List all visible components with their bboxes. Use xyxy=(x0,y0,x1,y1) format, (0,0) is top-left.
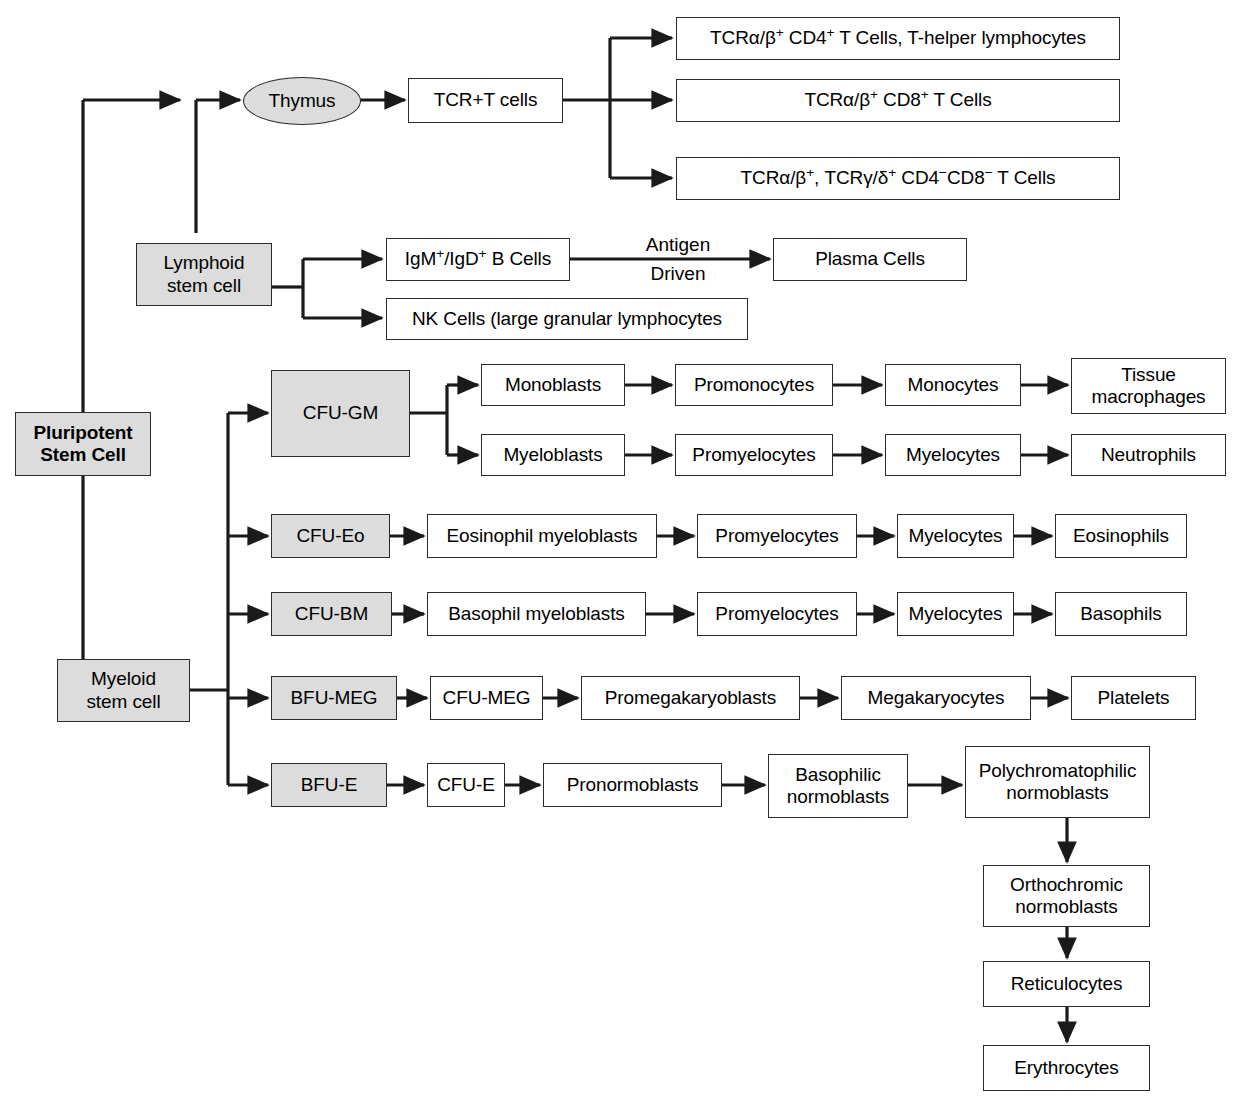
node-label: Lymphoid stem cell xyxy=(164,252,245,297)
node-label: CFU-GM xyxy=(303,402,378,424)
edge-label-driven: Driven xyxy=(613,263,743,285)
node-monoblasts[interactable]: Monoblasts xyxy=(481,364,625,406)
node-label: CFU-E xyxy=(437,774,495,796)
node-bfu-e[interactable]: BFU-E xyxy=(271,763,387,807)
node-label: TCRα/β+ CD8+ T Cells xyxy=(804,89,991,111)
node-label: Pluripotent Stem Cell xyxy=(33,422,132,467)
node-label: Myeloid stem cell xyxy=(86,668,160,713)
node-label: Pronormoblasts xyxy=(567,774,699,796)
edge-label-antigen: Antigen xyxy=(613,234,743,256)
node-label: BFU-E xyxy=(301,774,358,796)
node-label: Neutrophils xyxy=(1101,444,1196,466)
node-myeloid-stem-cell[interactable]: Myeloid stem cell xyxy=(57,659,190,722)
node-reticulocytes[interactable]: Reticulocytes xyxy=(983,961,1150,1007)
node-thymus[interactable]: Thymus xyxy=(243,77,361,125)
node-basophilic-normoblasts[interactable]: Basophilic normoblasts xyxy=(768,754,908,818)
node-label: Tissue macrophages xyxy=(1091,364,1205,409)
node-label: CFU-Eo xyxy=(296,525,364,547)
node-myelocytes-gm[interactable]: Myelocytes xyxy=(885,434,1021,476)
node-label: Promyelocytes xyxy=(715,525,838,547)
node-label: Monoblasts xyxy=(505,374,601,396)
node-neutrophils[interactable]: Neutrophils xyxy=(1071,434,1226,476)
node-label: Eosinophil myeloblasts xyxy=(446,525,637,547)
node-label: Myelocytes xyxy=(908,525,1002,547)
node-label: BFU-MEG xyxy=(291,687,378,709)
node-b-cells[interactable]: IgM+/IgD+ B Cells xyxy=(386,238,570,281)
node-nk-cells[interactable]: NK Cells (large granular lymphocytes xyxy=(386,298,748,340)
node-label: Promyelocytes xyxy=(715,603,838,625)
node-promegakaryoblasts[interactable]: Promegakaryoblasts xyxy=(581,676,800,720)
node-label: NK Cells (large granular lymphocytes xyxy=(412,308,722,330)
node-bfu-meg[interactable]: BFU-MEG xyxy=(271,676,397,720)
node-platelets[interactable]: Platelets xyxy=(1071,676,1196,720)
node-label: Basophilic normoblasts xyxy=(787,764,889,809)
node-cfu-eo[interactable]: CFU-Eo xyxy=(271,514,390,558)
node-pronormoblasts[interactable]: Pronormoblasts xyxy=(543,763,722,807)
node-myelocytes-bm[interactable]: Myelocytes xyxy=(897,592,1014,636)
node-basophil-myeloblasts[interactable]: Basophil myeloblasts xyxy=(427,592,646,636)
node-cfu-bm[interactable]: CFU-BM xyxy=(271,592,392,636)
node-myelocytes-eo[interactable]: Myelocytes xyxy=(897,514,1014,558)
node-cfu-gm[interactable]: CFU-GM xyxy=(271,370,410,457)
node-plasma-cells[interactable]: Plasma Cells xyxy=(773,238,967,281)
node-polychromatophilic-normoblasts[interactable]: Polychromatophilic normoblasts xyxy=(965,746,1150,818)
node-tcr-cd4-t-cells[interactable]: TCRα/β+ CD4+ T Cells, T-helper lymphocyt… xyxy=(676,17,1120,60)
node-label: Polychromatophilic normoblasts xyxy=(979,760,1137,805)
node-label: IgM+/IgD+ B Cells xyxy=(405,248,551,270)
hematopoiesis-diagram: Pluripotent Stem Cell Lymphoid stem cell… xyxy=(0,0,1243,1112)
node-label: Promegakaryoblasts xyxy=(605,687,776,709)
node-pluripotent-stem-cell[interactable]: Pluripotent Stem Cell xyxy=(15,412,151,476)
node-label: TCRα/β+, TCRγ/δ+ CD4−CD8− T Cells xyxy=(741,167,1056,189)
node-label: Megakaryocytes xyxy=(868,687,1005,709)
node-promonocytes[interactable]: Promonocytes xyxy=(675,364,833,406)
node-promyelocytes-gm[interactable]: Promyelocytes xyxy=(675,434,833,476)
node-basophils[interactable]: Basophils xyxy=(1055,592,1187,636)
node-tcr-t-cells[interactable]: TCR+T cells xyxy=(408,78,563,123)
node-label: Basophil myeloblasts xyxy=(448,603,624,625)
node-eosinophils[interactable]: Eosinophils xyxy=(1055,514,1187,558)
node-label: Orthochromic normoblasts xyxy=(1010,874,1123,919)
node-erythrocytes[interactable]: Erythrocytes xyxy=(983,1045,1150,1091)
node-lymphoid-stem-cell[interactable]: Lymphoid stem cell xyxy=(136,243,272,306)
node-label: CFU-BM xyxy=(295,603,368,625)
node-promyelocytes-bm[interactable]: Promyelocytes xyxy=(697,592,857,636)
node-tissue-macrophages[interactable]: Tissue macrophages xyxy=(1071,358,1226,414)
node-label: TCR+T cells xyxy=(434,89,538,111)
node-tcr-cd8-t-cells[interactable]: TCRα/β+ CD8+ T Cells xyxy=(676,79,1120,122)
node-monocytes[interactable]: Monocytes xyxy=(885,364,1021,406)
node-label: Plasma Cells xyxy=(815,248,925,270)
node-label: TCRα/β+ CD4+ T Cells, T-helper lymphocyt… xyxy=(710,27,1086,49)
node-eosinophil-myeloblasts[interactable]: Eosinophil myeloblasts xyxy=(427,514,657,558)
node-cfu-e[interactable]: CFU-E xyxy=(427,763,505,807)
node-label: Myelocytes xyxy=(908,603,1002,625)
node-label: Reticulocytes xyxy=(1011,973,1123,995)
node-orthochromic-normoblasts[interactable]: Orthochromic normoblasts xyxy=(983,865,1150,927)
node-promyelocytes-eo[interactable]: Promyelocytes xyxy=(697,514,857,558)
node-label: Platelets xyxy=(1098,687,1170,709)
node-myeloblasts[interactable]: Myeloblasts xyxy=(481,434,625,476)
node-label: Myelocytes xyxy=(906,444,1000,466)
node-label: Erythrocytes xyxy=(1014,1057,1118,1079)
node-label: Basophils xyxy=(1080,603,1161,625)
node-label: Eosinophils xyxy=(1073,525,1169,547)
node-megakaryocytes[interactable]: Megakaryocytes xyxy=(841,676,1031,720)
node-label: Monocytes xyxy=(908,374,999,396)
node-label: Promonocytes xyxy=(694,374,814,396)
node-label: Thymus xyxy=(269,90,336,112)
node-label: CFU-MEG xyxy=(443,687,531,709)
node-tcr-double-negative-t-cells[interactable]: TCRα/β+, TCRγ/δ+ CD4−CD8− T Cells xyxy=(676,157,1120,200)
node-cfu-meg[interactable]: CFU-MEG xyxy=(430,676,543,720)
node-label: Promyelocytes xyxy=(692,444,815,466)
node-label: Myeloblasts xyxy=(503,444,602,466)
